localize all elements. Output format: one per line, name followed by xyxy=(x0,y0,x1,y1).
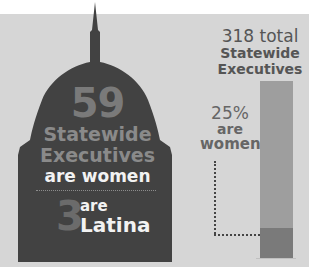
leader-line-vertical xyxy=(214,161,216,234)
latina-text: Latina xyxy=(80,214,150,236)
executives-label: Executives xyxy=(0,145,195,165)
are-latina-label: are Latina xyxy=(80,198,150,236)
total-statewide: Statewide xyxy=(210,45,309,61)
leader-line-horizontal xyxy=(214,234,260,236)
total-executives: Executives xyxy=(210,61,309,77)
percent-are: are xyxy=(200,122,260,136)
bar-women-segment xyxy=(260,228,293,258)
percent-value: 25% xyxy=(200,104,260,122)
total-count: 318 total xyxy=(210,27,309,45)
are-text: are xyxy=(80,198,150,214)
dotted-divider xyxy=(36,190,156,191)
bar-total-executives xyxy=(260,81,293,228)
women-count: 59 xyxy=(0,83,195,123)
bar-baseline xyxy=(256,258,296,259)
statewide-label: Statewide xyxy=(0,124,195,144)
are-women-label: are women xyxy=(0,166,195,186)
total-header: 318 total Statewide Executives xyxy=(210,27,309,77)
percent-women: women xyxy=(200,136,260,152)
percent-label: 25% are women xyxy=(200,104,260,152)
